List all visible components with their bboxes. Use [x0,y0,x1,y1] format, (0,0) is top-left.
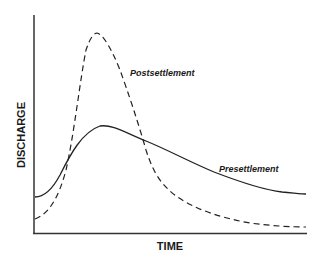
x-axis-title: TIME [157,240,183,252]
postsettlement-curve [35,33,306,227]
presettlement-curve [35,126,306,197]
postsettlement-label: Postsettlement [130,68,196,78]
presettlement-label: Presettlement [219,164,280,174]
y-axis-title: DISCHARGE [15,102,27,168]
hydrograph-chart: Postsettlement Presettlement TIME DISCHA… [0,0,321,259]
